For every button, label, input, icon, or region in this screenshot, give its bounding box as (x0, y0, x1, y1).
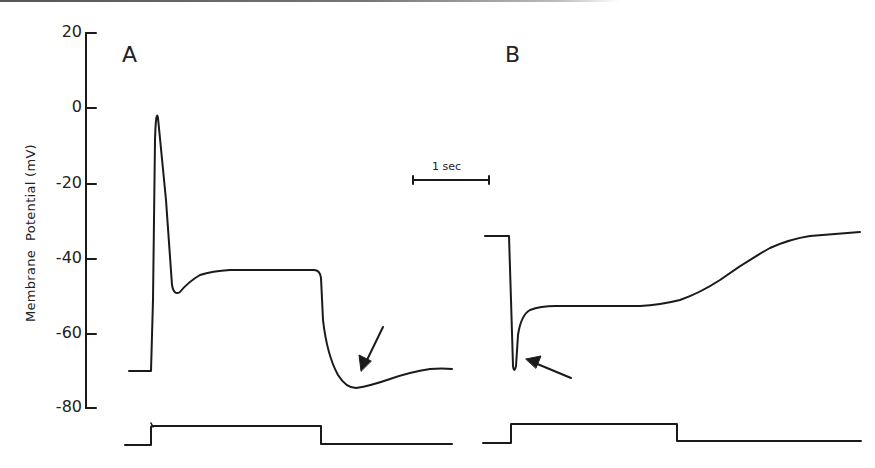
trace-a-stimulus (125, 426, 452, 445)
scale-bar (413, 176, 489, 184)
trace-a-membrane-potential (129, 116, 452, 388)
arrow-a-icon (359, 327, 383, 371)
trace-b-membrane-potential (485, 232, 860, 370)
figure-canvas (0, 0, 875, 468)
y-axis (86, 33, 96, 408)
arrow-b-icon (526, 356, 571, 378)
trace-b-stimulus (483, 424, 861, 443)
